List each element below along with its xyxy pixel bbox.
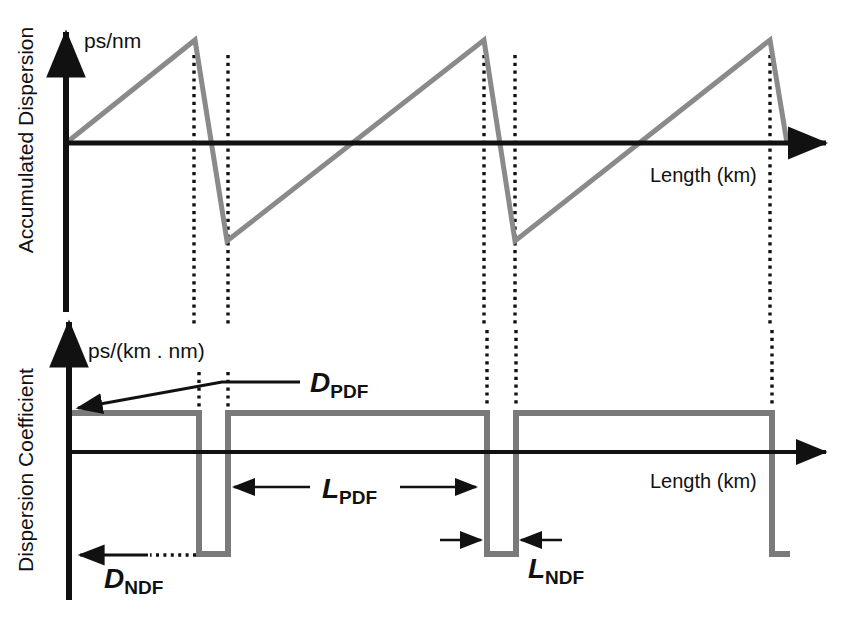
l-pdf-symbol: L [322,473,339,504]
top-unit-label: ps/nm [84,29,141,52]
dispersion-map-figure: ps/nm Length (km) Accumulated Dispersion [0,0,844,618]
d-ndf-subscript: NDF [124,577,163,598]
bottom-x-axis-label: Length (km) [650,470,757,492]
top-y-axis-label: Accumulated Dispersion [14,27,37,253]
d-pdf-subscript: PDF [330,381,368,402]
l-ndf-subscript: NDF [545,567,584,588]
dispersion-diagram: ps/nm Length (km) Accumulated Dispersion [0,0,844,618]
bottom-unit-label: ps/(km . nm) [88,339,205,362]
l-pdf-subscript: PDF [339,487,377,508]
d-pdf-symbol: D [310,367,330,398]
top-x-axis-label: Length (km) [650,164,757,186]
d-ndf-symbol: D [104,563,124,594]
l-ndf-symbol: L [528,553,545,584]
bottom-y-axis-label: Dispersion Coefficient [14,368,37,572]
